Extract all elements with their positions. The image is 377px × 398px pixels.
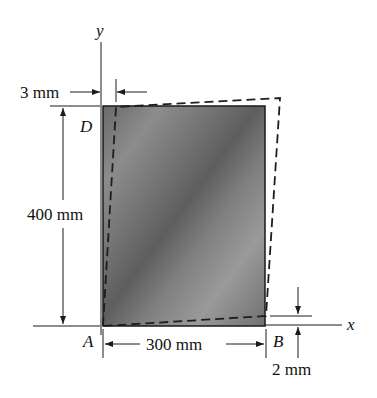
- point-a-label: A: [82, 332, 94, 351]
- deformation-diagram: y x 3 mm 400 mm 300 mm 2 mm D A B: [0, 0, 377, 398]
- drop-dimension-label: 2 mm: [272, 360, 311, 379]
- undeformed-plate: [103, 106, 265, 326]
- shift-dimension-label: 3 mm: [20, 83, 59, 102]
- width-dimension-label: 300 mm: [146, 335, 202, 354]
- x-axis-label: x: [346, 315, 355, 334]
- height-dimension-label: 400 mm: [27, 205, 83, 224]
- point-b-label: B: [273, 332, 284, 351]
- y-axis-label: y: [94, 21, 104, 40]
- point-d-label: D: [79, 117, 93, 136]
